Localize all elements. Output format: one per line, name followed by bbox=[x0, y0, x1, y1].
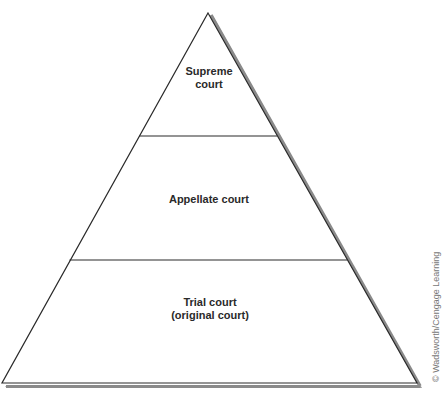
tier-supreme-line-2: court bbox=[185, 78, 232, 91]
copyright-credit: © Wadsworth/Cengage Learning bbox=[431, 252, 441, 382]
tier-supreme-court: Supreme court bbox=[185, 65, 232, 91]
tier-trial-line-2: (original court) bbox=[171, 309, 249, 322]
tier-trial-court: Trial court (original court) bbox=[171, 296, 249, 322]
tier-appellate-line-1: Appellate court bbox=[169, 193, 249, 206]
tier-supreme-line-1: Supreme bbox=[185, 65, 232, 78]
tier-trial-line-1: Trial court bbox=[171, 296, 249, 309]
tier-appellate-court: Appellate court bbox=[169, 193, 249, 206]
